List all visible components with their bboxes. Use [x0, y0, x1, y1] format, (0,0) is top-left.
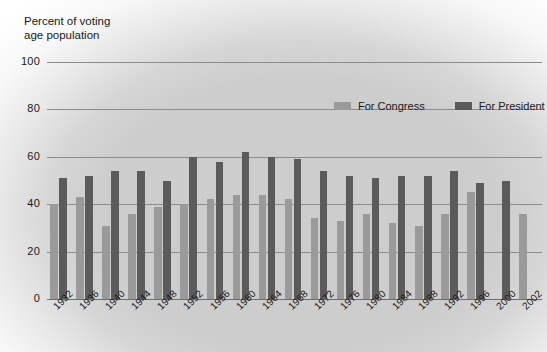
- y-axis-tick-label: 80: [4, 102, 40, 114]
- y-axis-title: Percent of votingage population: [24, 14, 110, 42]
- bar: [59, 178, 67, 299]
- bar: [337, 221, 345, 299]
- bar: [311, 218, 319, 299]
- bar: [233, 195, 241, 299]
- bar: [85, 176, 93, 299]
- bar: [154, 207, 162, 299]
- bar: [102, 226, 110, 299]
- legend-label: For President: [479, 100, 545, 112]
- y-axis-tick-label: 20: [4, 245, 40, 257]
- legend-item: For Congress: [334, 100, 425, 112]
- y-axis-tick-label: 100: [4, 55, 40, 67]
- bar: [207, 199, 215, 299]
- bar: [50, 204, 58, 299]
- chart-figure: Percent of votingage population 10080604…: [0, 0, 547, 352]
- bar: [163, 181, 171, 300]
- y-axis-title-line1: Percent of voting: [24, 15, 110, 27]
- bar: [424, 176, 432, 299]
- bar: [467, 192, 475, 299]
- bar: [363, 214, 371, 299]
- bar: [519, 214, 527, 299]
- y-axis-tick-label: 40: [4, 197, 40, 209]
- bar: [242, 152, 250, 299]
- bar: [502, 181, 510, 300]
- y-axis-tick-label: 60: [4, 150, 40, 162]
- y-axis-tick-label: 0: [4, 292, 40, 304]
- bar: [441, 214, 449, 299]
- plot-area: [47, 62, 542, 299]
- legend-swatch: [455, 102, 472, 110]
- bar: [294, 159, 302, 299]
- bar: [216, 162, 224, 299]
- bar: [259, 195, 267, 299]
- gridline: [47, 62, 542, 63]
- legend-item: For President: [455, 100, 545, 112]
- bar: [180, 204, 188, 299]
- bar: [189, 157, 197, 299]
- bar: [111, 171, 119, 299]
- bar: [476, 183, 484, 299]
- legend-swatch: [334, 102, 351, 110]
- bar: [398, 176, 406, 299]
- bar: [268, 157, 276, 299]
- bar: [76, 197, 84, 299]
- bar: [450, 171, 458, 299]
- bar: [128, 214, 136, 299]
- bar: [346, 176, 354, 299]
- chart-legend: For CongressFor President: [334, 100, 545, 112]
- bar: [137, 171, 145, 299]
- legend-label: For Congress: [358, 100, 425, 112]
- bar: [389, 223, 397, 299]
- bar: [320, 171, 328, 299]
- bar: [372, 178, 380, 299]
- bar: [415, 226, 423, 299]
- y-axis-title-line2: age population: [24, 29, 99, 41]
- gridline: [47, 157, 542, 158]
- bar: [285, 199, 293, 299]
